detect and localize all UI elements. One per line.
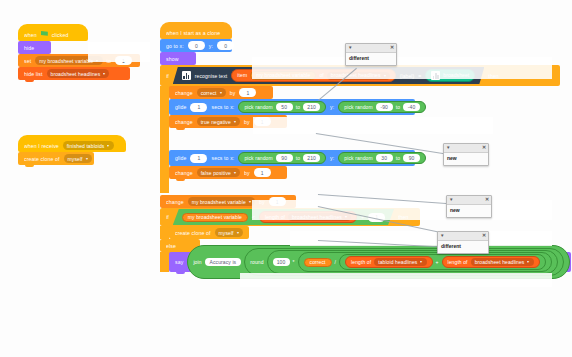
- popup-titlebar[interactable]: ▼ ✕: [444, 144, 488, 153]
- popup-body: different: [438, 241, 488, 253]
- block-create-clone-2[interactable]: create clone of myself ▾: [169, 226, 249, 239]
- counter-variable-reporter[interactable]: my broadsheet variable: [182, 213, 248, 222]
- block-editor-canvas[interactable]: when clicked hide set my broadsheet vari…: [0, 0, 572, 357]
- popup-titlebar[interactable]: ▼ ✕: [447, 196, 491, 205]
- divide-reporter[interactable]: correct / length of tabloid headlines: [298, 252, 552, 272]
- variable-dropdown[interactable]: true negative ▾: [197, 117, 240, 126]
- variable-name: true negative: [201, 119, 231, 125]
- glide-secs-input[interactable]: 1: [190, 103, 207, 112]
- multiply-reporter[interactable]: 100 * correct / length of: [267, 250, 558, 274]
- hat-when-i-receive[interactable]: when I receive finished tabloids ▾: [18, 135, 126, 152]
- popup-new-upper[interactable]: ▼ ✕ new: [443, 143, 489, 166]
- correct-variable-reporter[interactable]: correct: [304, 258, 332, 267]
- chevron-down-icon[interactable]: ▼: [449, 198, 453, 203]
- if-label: if: [166, 73, 169, 79]
- chevron-down-icon: ▾: [234, 170, 236, 175]
- close-icon[interactable]: ✕: [482, 146, 486, 151]
- pick-random-x[interactable]: pick random 90 to 210: [238, 152, 326, 164]
- secs-to-x-label: secs to x:: [211, 155, 234, 161]
- create-clone-label: create clone of: [175, 230, 211, 236]
- plus-operator: +: [436, 260, 439, 265]
- hat-when-start-as-clone[interactable]: when I start as a clone: [160, 22, 232, 39]
- random-from-input[interactable]: 90: [276, 154, 293, 162]
- close-icon[interactable]: ✕: [390, 46, 394, 51]
- block-change-false-positive[interactable]: change false positive ▾ by 1: [169, 166, 287, 179]
- change-label: change: [175, 170, 193, 176]
- chevron-down-icon: ▾: [107, 143, 109, 148]
- block-hide[interactable]: hide: [18, 41, 51, 54]
- round-reporter[interactable]: round 100 * correct /: [244, 248, 563, 276]
- when-label: when: [24, 32, 37, 38]
- clone-target-dropdown[interactable]: myself ▾: [64, 154, 92, 163]
- glide-y-label: y:: [330, 104, 334, 110]
- length-of-broadsheet-reporter[interactable]: length of broadsheet headlines ▾: [442, 256, 540, 268]
- overlay-sheet-6: [240, 273, 552, 287]
- message-dropdown[interactable]: finished tabloids ▾: [63, 141, 114, 150]
- pick-random-x[interactable]: pick random 50 to 210: [238, 101, 326, 113]
- random-to-input[interactable]: 210: [303, 154, 320, 162]
- block-change-correct[interactable]: change correct ▾ by 1: [169, 86, 273, 99]
- block-show[interactable]: show: [160, 52, 196, 65]
- goto-x-input[interactable]: 0: [188, 41, 205, 50]
- close-icon[interactable]: ✕: [482, 234, 486, 239]
- chevron-down-icon: ▾: [420, 260, 422, 264]
- variable-name: false positive: [201, 170, 231, 176]
- random-from-input[interactable]: -90: [376, 103, 393, 111]
- if-body-stack: change correct ▾ by 1 glide 1 secs to x:: [169, 86, 415, 193]
- chevron-down-icon[interactable]: ▼: [348, 46, 352, 51]
- glide-label: glide: [175, 104, 186, 110]
- popup-body: new: [447, 205, 491, 217]
- block-say-accuracy[interactable]: say join Accuracy is round 100 * cor: [169, 252, 571, 272]
- list-dropdown[interactable]: broadsheet headlines ▾: [471, 258, 534, 266]
- popup-titlebar[interactable]: ▼ ✕: [438, 232, 488, 241]
- change-amount-input[interactable]: 1: [239, 88, 256, 97]
- join-label: join: [193, 260, 201, 265]
- random-from-input[interactable]: 30: [376, 154, 393, 162]
- variable-name: correct: [201, 90, 217, 96]
- goto-y-input[interactable]: 0: [217, 41, 234, 50]
- else-label: else: [166, 243, 176, 249]
- block-create-clone[interactable]: create clone of myself ▾: [18, 152, 94, 165]
- random-to-input[interactable]: 90: [403, 154, 420, 162]
- block-hide-list[interactable]: hide list broadsheet headlines ▾: [18, 67, 130, 80]
- close-icon[interactable]: ✕: [485, 198, 489, 203]
- random-to-input[interactable]: -40: [403, 103, 420, 111]
- popup-different-top[interactable]: ▼ ✕ different: [345, 43, 397, 66]
- overlay-sheet-2: [252, 57, 552, 79]
- script-on-receive[interactable]: when I receive finished tabloids ▾ creat…: [18, 135, 128, 165]
- clone-target: myself: [219, 230, 234, 236]
- change-label: change: [175, 119, 193, 125]
- block-go-to-xy[interactable]: go to x: 0 y: 0: [160, 39, 232, 52]
- sum-reporter[interactable]: length of tabloid headlines ▾ +: [339, 254, 546, 270]
- goto-label: go to x:: [166, 43, 184, 49]
- clone-target-dropdown[interactable]: myself ▾: [215, 228, 243, 237]
- pick-random-y[interactable]: pick random 30 to 90: [338, 152, 426, 164]
- pick-random-y[interactable]: pick random -90 to -40: [338, 101, 426, 113]
- block-glide-2[interactable]: glide 1 secs to x: pick random 90 to 210…: [169, 150, 415, 166]
- change-amount-input[interactable]: 1: [254, 168, 271, 177]
- random-from-input[interactable]: 50: [276, 103, 293, 111]
- chevron-down-icon: ▾: [103, 71, 105, 76]
- popup-titlebar[interactable]: ▼ ✕: [346, 44, 396, 53]
- length-of-tabloid-reporter[interactable]: length of tabloid headlines ▾: [345, 256, 432, 268]
- list-dropdown[interactable]: tabloid headlines ▾: [374, 258, 426, 266]
- say-label: say: [175, 259, 183, 265]
- item-label: item: [237, 73, 247, 78]
- variable-dropdown[interactable]: correct ▾: [197, 88, 226, 97]
- glide-secs-input[interactable]: 1: [190, 154, 207, 163]
- hundred-input[interactable]: 100: [273, 258, 290, 266]
- chevron-down-icon[interactable]: ▼: [446, 146, 450, 151]
- list-name: tabloid headlines: [378, 260, 417, 265]
- chevron-down-icon[interactable]: ▼: [440, 234, 444, 239]
- popup-new-lower[interactable]: ▼ ✕ new: [446, 195, 492, 218]
- popup-different-bottom[interactable]: ▼ ✕ different: [437, 231, 489, 254]
- variable-dropdown[interactable]: false positive ▾: [197, 168, 240, 177]
- random-to-input[interactable]: 210: [303, 103, 320, 111]
- hat-when-flag-clicked[interactable]: when clicked: [18, 24, 88, 41]
- if2-body-stack: create clone of myself ▾: [169, 226, 249, 239]
- variable-dropdown[interactable]: my broadsheet variable ▾: [188, 197, 255, 206]
- change-label: change: [175, 90, 193, 96]
- list-dropdown[interactable]: broadsheet headlines ▾: [47, 69, 110, 78]
- accuracy-text-input[interactable]: Accuracy is: [205, 258, 242, 266]
- block-glide-1[interactable]: glide 1 secs to x: pick random 50 to 210…: [169, 99, 415, 115]
